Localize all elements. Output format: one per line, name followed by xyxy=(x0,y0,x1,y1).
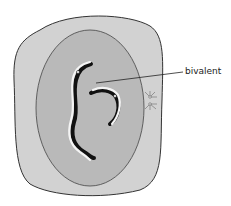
centromere xyxy=(114,95,117,98)
nucleus xyxy=(36,30,144,186)
centromere xyxy=(77,71,80,74)
cell-diagram xyxy=(0,0,231,206)
bivalent-label: bivalent xyxy=(185,66,221,76)
